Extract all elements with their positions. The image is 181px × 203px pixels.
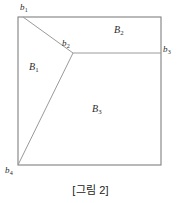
square-boundary: [18, 17, 161, 165]
figure-container: b1 b2 b3 b4 B1 B2 B3 [그림 2]: [0, 0, 181, 203]
region-label-B2: B2: [114, 25, 124, 37]
vertex-label-b1: b1: [20, 3, 28, 13]
figure-caption: [그림 2]: [0, 181, 181, 197]
partition-diagram: [0, 0, 181, 203]
region-label-B3: B3: [92, 104, 102, 116]
region-label-B1: B1: [29, 62, 39, 74]
vertex-label-b3: b3: [163, 45, 171, 55]
vertex-label-b4: b4: [5, 166, 13, 176]
vertex-label-b2: b2: [62, 39, 70, 49]
